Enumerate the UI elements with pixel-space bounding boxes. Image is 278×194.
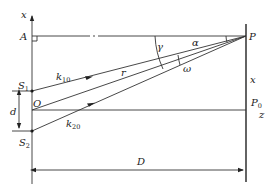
right-angle-mark <box>32 36 37 41</box>
screen-x-label: x <box>250 74 256 85</box>
x-axis-label: x <box>21 9 27 20</box>
point-a-label: A <box>19 31 27 42</box>
point-p-label: P <box>248 31 256 42</box>
source-s2-label: S2 <box>19 137 30 150</box>
gamma-label: γ <box>157 41 163 52</box>
alpha-label: α <box>192 37 199 48</box>
omega-arc <box>178 55 180 65</box>
k20-label: k20 <box>66 118 80 131</box>
origin-o-label: O <box>33 98 41 109</box>
k10-label: k10 <box>56 71 70 84</box>
r-label: r <box>121 67 127 78</box>
ray-o-p <box>32 36 246 110</box>
interference-diagram: x A P S1 O S2 d k10 k20 r α γ ω x P0 z D <box>0 0 278 194</box>
omega-label: ω <box>183 63 191 74</box>
k10-arrowhead <box>85 76 93 80</box>
d-label: d <box>10 106 16 117</box>
D-label: D <box>136 156 145 167</box>
